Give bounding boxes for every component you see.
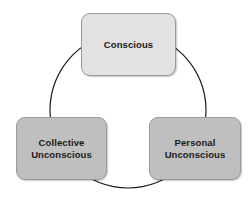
node-conscious-label: Conscious (101, 39, 156, 51)
node-personal-unconscious[interactable]: Personal Unconscious (149, 117, 241, 180)
node-collective-unconscious-label: Collective Unconscious (28, 137, 95, 161)
node-conscious[interactable]: Conscious (81, 13, 176, 76)
node-collective-unconscious[interactable]: Collective Unconscious (16, 117, 107, 180)
cycle-diagram: Conscious Collective Unconscious Persona… (0, 0, 251, 211)
node-personal-unconscious-label: Personal Unconscious (162, 137, 229, 161)
